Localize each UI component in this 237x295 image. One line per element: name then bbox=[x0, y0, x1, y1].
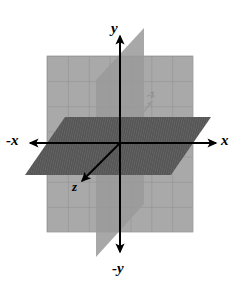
coordinate-axes-diagram bbox=[0, 0, 237, 295]
axis-label-negative-y: -y bbox=[112, 261, 124, 276]
axis-label-y: y bbox=[111, 21, 118, 36]
axis-label-x: x bbox=[221, 133, 229, 148]
axis-label-negative-x: -x bbox=[6, 133, 19, 148]
coordinate-system-figure: y -y x -x z -z bbox=[0, 0, 237, 295]
axis-label-z: z bbox=[72, 180, 77, 193]
